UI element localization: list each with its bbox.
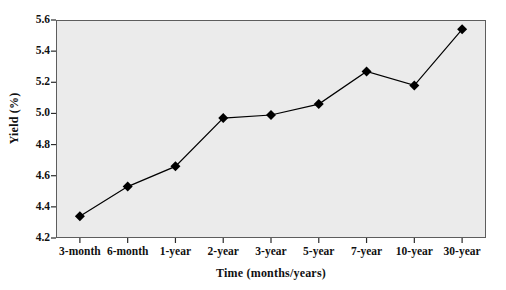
- data-point-marker: [362, 66, 372, 76]
- data-point-marker: [266, 110, 276, 120]
- series-markers-yield: [75, 24, 467, 221]
- data-point-marker: [123, 182, 133, 192]
- chart-series-layer: [0, 0, 506, 290]
- y-axis-title: Yield (%): [7, 74, 22, 164]
- yield-curve-chart: 4.24.44.64.85.05.25.45.6 3-month6-month1…: [0, 0, 506, 290]
- data-point-marker: [75, 211, 85, 221]
- axis-tick-marks: [51, 20, 462, 243]
- x-axis-title: Time (months/years): [56, 266, 486, 281]
- data-point-marker: [314, 99, 324, 109]
- series-line-yield: [80, 29, 462, 216]
